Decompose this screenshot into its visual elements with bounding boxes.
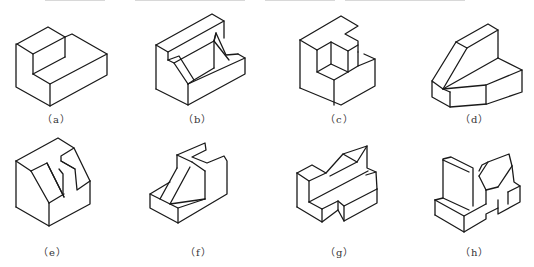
label-c: （c）	[325, 111, 354, 126]
figure-g	[297, 146, 377, 222]
figure-a	[16, 27, 107, 106]
figure-c	[300, 16, 375, 105]
figure-h	[435, 154, 520, 232]
label-g: （g）	[325, 244, 354, 259]
label-e: （e）	[38, 244, 67, 259]
drawing-canvas	[0, 0, 534, 267]
label-a: （a）	[42, 111, 71, 126]
label-b: （b）	[183, 111, 212, 126]
figure-b	[156, 14, 245, 105]
figure-d	[432, 24, 522, 107]
label-f: （f）	[185, 244, 212, 259]
label-h: （h）	[460, 244, 489, 259]
label-d: （d）	[460, 111, 489, 126]
figure-f	[150, 143, 227, 223]
figure-e	[16, 138, 90, 226]
